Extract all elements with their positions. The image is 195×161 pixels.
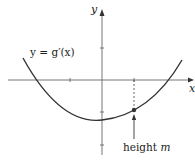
x-axis-label: x (189, 82, 195, 95)
annotation-var: m (160, 141, 170, 153)
graph-figure: y x y = g′(x) height m (0, 0, 195, 161)
y-axis-label: y (90, 3, 98, 16)
y-axis-arrow-icon (100, 9, 105, 16)
curve-label: y = g′(x) (29, 46, 75, 58)
annotation-text: height (123, 141, 158, 153)
annotation-arrow-head-icon (132, 114, 136, 120)
annotation-label: height m (123, 141, 170, 153)
point-height-m (132, 108, 136, 112)
curve-g-prime (23, 58, 182, 120)
